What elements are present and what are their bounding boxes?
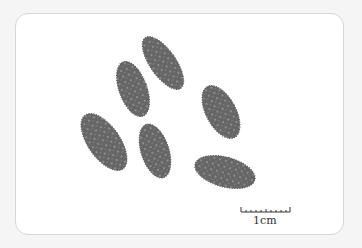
seed-4: [72, 106, 136, 178]
scale-bar: [241, 207, 290, 212]
seed-3: [194, 79, 248, 144]
scale-label: 1cm: [253, 214, 277, 227]
seed-6: [191, 149, 259, 194]
seed-5: [133, 120, 177, 182]
seeds-photo: [0, 0, 362, 248]
seed-2: [110, 57, 156, 121]
